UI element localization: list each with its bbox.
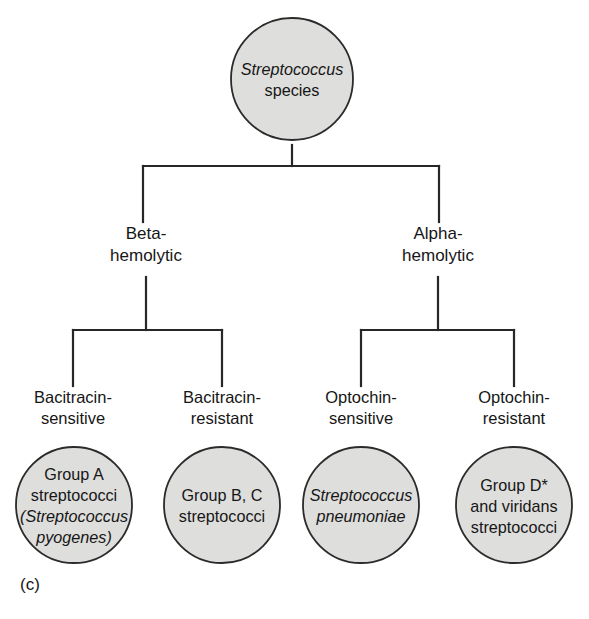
- group-b-c-streptococci-circle: [164, 447, 280, 563]
- branch-label-optochin-resistant: Optochin- resistant: [478, 388, 550, 427]
- group-a-line4: pyogenes): [35, 528, 112, 546]
- optochin-sensitive-line2: sensitive: [329, 409, 393, 427]
- group-d-line3: streptococci: [471, 518, 557, 536]
- root-node-line1: Streptococcus: [241, 60, 344, 78]
- bacitracin-sensitive-line1: Bacitracin-: [34, 388, 112, 406]
- bacitracin-resistant-line1: Bacitracin-: [183, 388, 261, 406]
- leaf-node-group-d-viridans-streptococci: Group D* and viridans streptococci: [456, 447, 572, 563]
- branch-label-bacitracin-sensitive: Bacitracin- sensitive: [34, 388, 112, 427]
- connector-lines: [73, 145, 514, 386]
- group-b-c-line2: streptococci: [179, 507, 265, 525]
- streptococcus-pneumoniae-circle: [303, 447, 419, 563]
- figure-label: (c): [20, 575, 40, 594]
- group-a-line2: streptococci: [31, 486, 117, 504]
- optochin-resistant-line2: resistant: [483, 409, 546, 427]
- pneumoniae-line2: pneumoniae: [315, 507, 405, 525]
- root-node-circle: [231, 18, 353, 140]
- branch-label-beta-hemolytic: Beta- hemolytic: [110, 224, 182, 265]
- bacitracin-resistant-line2: resistant: [191, 409, 254, 427]
- group-a-line3: (Streptococcus: [20, 507, 128, 525]
- alpha-hemolytic-line1: Alpha-: [413, 224, 462, 243]
- group-b-c-line1: Group B, C: [182, 486, 263, 504]
- branch-label-bacitracin-resistant: Bacitracin- resistant: [183, 388, 261, 427]
- leaf-node-streptococcus-pneumoniae: Streptococcus pneumoniae: [303, 447, 419, 563]
- leaf-node-group-b-c-streptococci: Group B, C streptococci: [164, 447, 280, 563]
- root-node-line2: species: [265, 81, 320, 99]
- bacitracin-sensitive-line2: sensitive: [41, 409, 105, 427]
- leaf-node-group-a-streptococci: Group A streptococci (Streptococcus pyog…: [16, 447, 132, 563]
- beta-hemolytic-line2: hemolytic: [110, 246, 182, 265]
- group-d-line2: and viridans: [470, 497, 557, 515]
- branch-label-alpha-hemolytic: Alpha- hemolytic: [402, 224, 474, 265]
- beta-hemolytic-line1: Beta-: [126, 224, 167, 243]
- optochin-resistant-line1: Optochin-: [478, 388, 550, 406]
- pneumoniae-line1: Streptococcus: [310, 486, 413, 504]
- group-d-line1: Group D*: [480, 476, 548, 494]
- root-node-streptococcus-species: Streptococcus species: [231, 18, 353, 140]
- alpha-hemolytic-line2: hemolytic: [402, 246, 474, 265]
- group-a-line1: Group A: [44, 465, 104, 483]
- streptococcus-classification-figure: Streptococcus species Beta- hemolytic Al…: [0, 0, 589, 619]
- branch-label-optochin-sensitive: Optochin- sensitive: [325, 388, 397, 427]
- optochin-sensitive-line1: Optochin-: [325, 388, 397, 406]
